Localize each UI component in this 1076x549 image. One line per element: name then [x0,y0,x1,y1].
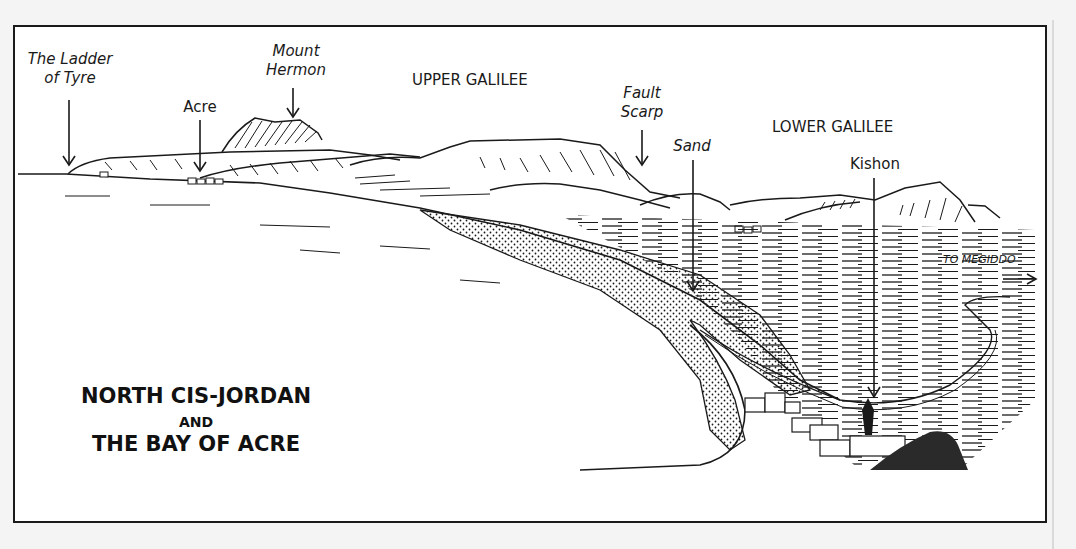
diagram-title-line2: AND [179,414,213,430]
label-ladder-of-tyre-line2: of Tyre [28,69,113,88]
label-to-megiddo: TO MEGIDDO [943,250,1016,269]
label-mount-hermon-line2: Hermon [266,61,326,80]
label-fault-scarp-line2: Scarp [621,103,664,122]
label-acre: Acre [183,98,216,117]
label-mount-hermon: Mount Hermon [266,42,326,80]
label-sand: Sand [673,137,711,156]
mount-hermon [222,118,322,152]
label-fault-scarp-line1: Fault [621,84,664,103]
label-kishon: Kishon [850,155,900,174]
label-ladder-of-tyre-line1: The Ladder [28,50,113,69]
label-fault-scarp: Fault Scarp [621,84,664,122]
bay-water-lines [65,196,500,283]
lower-galilee-hills [730,182,1000,222]
label-mount-hermon-line1: Mount [266,42,326,61]
ladder-of-tyre-ridge [68,150,420,178]
label-upper-galilee: UPPER GALILEE [412,71,528,90]
diagram-title-line1: NORTH CIS-JORDAN [81,384,311,408]
label-lower-galilee: LOWER GALILEE [772,118,893,137]
diagram-title-line3: THE BAY OF ACRE [92,432,300,456]
label-ladder-of-tyre: The Ladder of Tyre [28,50,113,88]
landscape-drawing [0,0,1076,549]
acre-town [100,172,223,184]
